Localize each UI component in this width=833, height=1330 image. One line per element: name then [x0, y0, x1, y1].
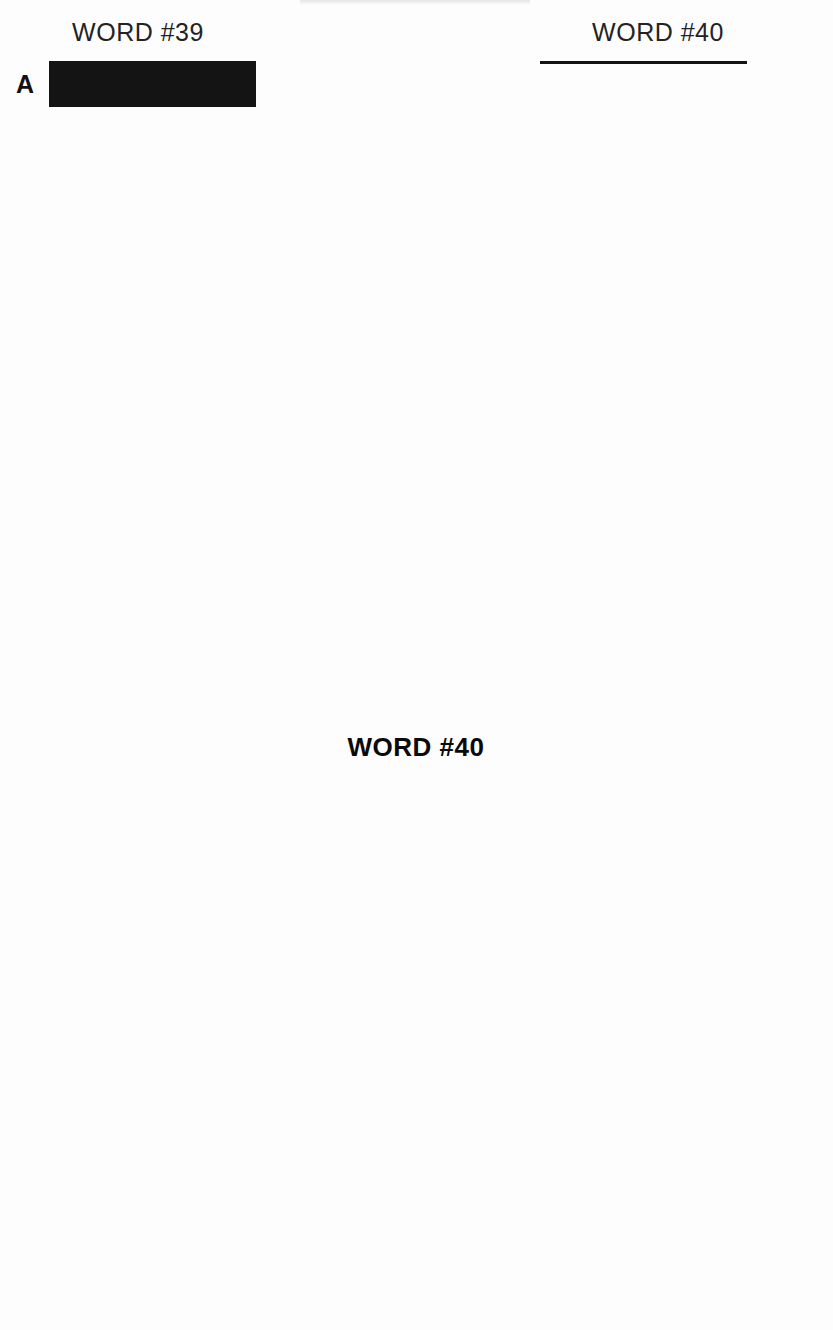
row-letter-label: A — [0, 61, 36, 107]
letter-rail-right — [760, 61, 796, 64]
cut-off-text-remnant — [300, 0, 530, 5]
worksheet-page: WORD #39 A WORD #40 WORD #40 — [0, 0, 833, 1330]
letter-grid-left — [49, 61, 256, 107]
letter-panel-left-title: WORD #39 — [10, 18, 266, 47]
letter-grid-right — [540, 61, 747, 64]
word-entry-column-bottom-title: WORD #40 — [277, 732, 555, 763]
letter-panel-right-title: WORD #40 — [530, 18, 786, 47]
letter-panel-left-body: A — [0, 61, 256, 107]
letter-panel-left: WORD #39 A — [0, 18, 256, 107]
letter-panel-right-body — [540, 61, 796, 64]
letter-rail-left: A — [0, 61, 36, 107]
letter-panel-right: WORD #40 — [540, 18, 796, 64]
word-entry-column-bottom: WORD #40 — [277, 732, 555, 781]
